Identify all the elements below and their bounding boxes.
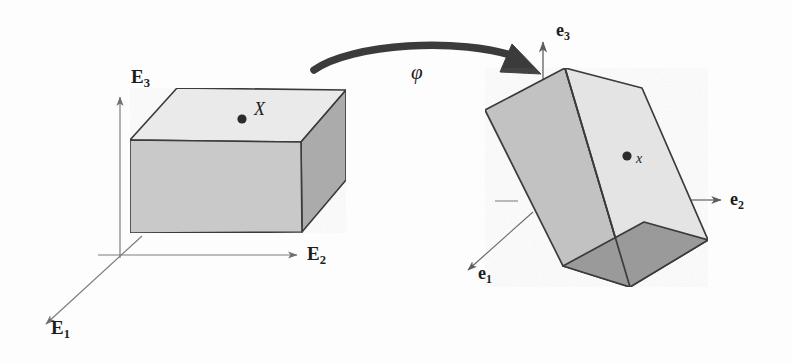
axis-label-e3-letter: e xyxy=(556,20,564,40)
deformation-map-symbol: φ xyxy=(411,60,423,85)
current-point-label: x xyxy=(636,151,642,167)
axis-label-e2-letter: e xyxy=(730,189,738,209)
axis-label-E2: E2 xyxy=(307,243,326,268)
axis-label-E3-letter: E xyxy=(131,66,144,87)
axis-label-e2: e2 xyxy=(730,189,744,213)
axis-e1-line xyxy=(468,212,533,270)
axis-label-e1: e1 xyxy=(478,263,492,287)
deformation-arrow-head xyxy=(500,44,541,74)
figure-canvas: E3 E2 E1 X φ e3 e2 e1 x xyxy=(0,0,792,363)
axis-label-E3-index: 3 xyxy=(144,76,150,90)
axis-label-E2-index: 2 xyxy=(320,253,326,267)
reference-body-shape xyxy=(130,88,346,233)
axis-label-e3-index: 3 xyxy=(564,29,570,43)
axis-label-E3: E3 xyxy=(131,66,150,91)
deformation-arrow xyxy=(314,44,541,74)
axis-label-E1-letter: E xyxy=(51,317,64,338)
axis-label-E1: E1 xyxy=(51,317,70,342)
axis-label-e1-letter: e xyxy=(478,263,486,283)
deformed-body-shape xyxy=(485,68,708,287)
reference-point-label: X xyxy=(254,99,265,120)
axis-label-E2-letter: E xyxy=(307,243,320,264)
axis-E1-line xyxy=(46,236,142,324)
figure-svg xyxy=(0,0,792,363)
axis-label-e3: e3 xyxy=(556,20,570,44)
current-point-marker xyxy=(622,151,631,160)
reference-point-marker xyxy=(237,114,246,123)
axis-label-e2-index: 2 xyxy=(738,198,744,212)
axis-label-E1-index: 1 xyxy=(64,327,70,341)
reference-body-front-face xyxy=(130,140,302,233)
axis-label-e1-index: 1 xyxy=(486,272,492,286)
